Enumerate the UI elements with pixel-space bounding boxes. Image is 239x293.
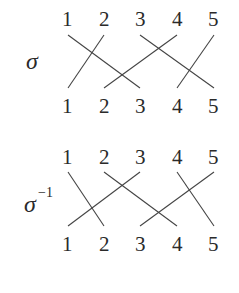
wire-5-to-4: [177, 35, 214, 88]
bottom-label-5: 5: [208, 232, 219, 256]
top-label-3: 3: [135, 7, 146, 31]
bottom-label-1: 1: [62, 232, 73, 256]
top-label-3: 3: [135, 145, 146, 169]
top-label-5: 5: [208, 145, 219, 169]
wire-1-to-3: [68, 35, 140, 88]
bottom-label-4: 4: [172, 94, 183, 118]
top-label-4: 4: [172, 145, 183, 169]
wire-5-to-3: [140, 172, 214, 226]
bottom-label-2: 2: [99, 94, 110, 118]
sigma-inverse-label: σ: [24, 191, 37, 217]
bottom-label-1: 1: [62, 94, 73, 118]
sigma-wires: [68, 35, 214, 88]
top-label-2: 2: [99, 145, 110, 169]
wire-2-to-1: [68, 35, 104, 88]
bottom-label-3: 3: [135, 94, 146, 118]
top-label-4: 4: [172, 7, 183, 31]
top-label-5: 5: [208, 7, 219, 31]
bottom-label-5: 5: [208, 94, 219, 118]
sigma-label: σ: [26, 48, 39, 74]
inverse-superscript: −1: [38, 185, 53, 200]
sigma-inverse-diagram: σ −1 1 2 3 4 5 1 2 3 4 5: [24, 145, 219, 256]
sigma-inverse-wires: [68, 172, 214, 226]
wire-3-to-5: [140, 35, 214, 88]
wire-1-to-2: [68, 172, 104, 226]
bottom-label-2: 2: [99, 232, 110, 256]
sigma-bottom-labels: 1 2 3 4 5: [62, 94, 219, 118]
wire-3-to-1: [68, 172, 140, 226]
sigma-inverse-bottom-labels: 1 2 3 4 5: [62, 232, 219, 256]
top-label-1: 1: [62, 7, 73, 31]
bottom-label-3: 3: [135, 232, 146, 256]
sigma-inverse-top-labels: 1 2 3 4 5: [62, 145, 219, 169]
top-label-2: 2: [99, 7, 110, 31]
wire-4-to-5: [177, 172, 214, 226]
wire-2-to-4: [104, 172, 177, 226]
bottom-label-4: 4: [172, 232, 183, 256]
top-label-1: 1: [62, 145, 73, 169]
sigma-top-labels: 1 2 3 4 5: [62, 7, 219, 31]
wire-4-to-2: [104, 35, 177, 88]
sigma-diagram: σ 1 2 3 4 5 1 2 3 4 5: [26, 7, 219, 118]
permutation-diagrams: σ 1 2 3 4 5 1 2 3 4 5 σ −1 1 2: [0, 0, 239, 293]
